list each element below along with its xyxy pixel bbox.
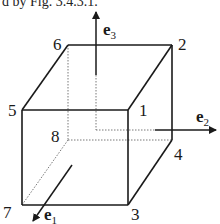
e3-label: e3	[103, 20, 117, 41]
visible-edges	[22, 45, 172, 205]
cube-diagram: d by Fig. 3.4.3.1.	[0, 0, 220, 224]
e2-label: e2	[196, 107, 209, 128]
vertex-7-label: 7	[3, 203, 12, 222]
hidden-edges	[22, 45, 172, 205]
e1-axis-arrow	[33, 165, 72, 221]
cube-figure: e3 e2 e1 6 2 5 1 8 4 7 3	[0, 0, 220, 224]
vertex-2-label: 2	[178, 35, 187, 54]
vertex-1-label: 1	[139, 101, 148, 120]
vertex-4-label: 4	[174, 145, 183, 164]
vertex-6-label: 6	[53, 35, 62, 54]
vertex-3-label: 3	[131, 205, 140, 224]
vertex-5-label: 5	[8, 101, 17, 120]
vertex-8-label: 8	[51, 127, 60, 146]
e1-label: e1	[44, 205, 57, 224]
